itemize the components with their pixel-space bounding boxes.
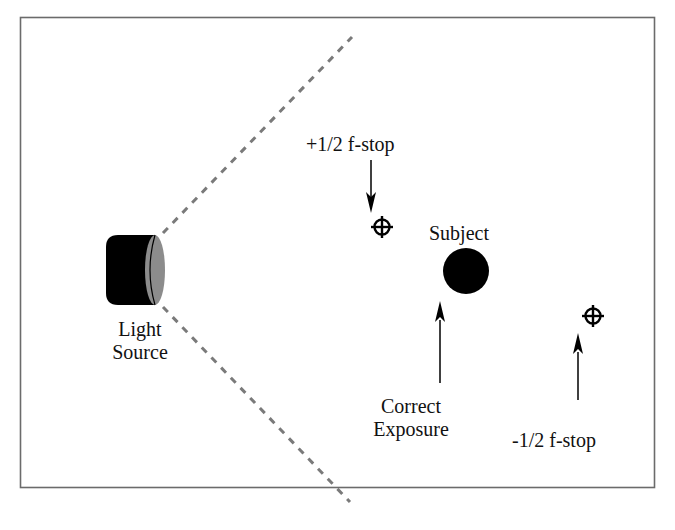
subject-icon bbox=[443, 248, 489, 294]
plus-half-stop-label: +1/2 f-stop bbox=[306, 133, 395, 156]
minus-half-stop-label: -1/2 f-stop bbox=[512, 429, 596, 452]
correct-exposure-label: Correct Exposure bbox=[356, 395, 466, 441]
subject-label: Subject bbox=[429, 222, 489, 245]
light-source-label-line1: Light bbox=[98, 318, 182, 341]
light-source-label-line2: Source bbox=[98, 341, 182, 364]
light-source-icon bbox=[106, 235, 165, 305]
correct-exposure-label-line1: Correct bbox=[356, 395, 466, 418]
correct-exposure-label-line2: Exposure bbox=[356, 418, 466, 441]
light-source-label: Light Source bbox=[98, 318, 182, 364]
